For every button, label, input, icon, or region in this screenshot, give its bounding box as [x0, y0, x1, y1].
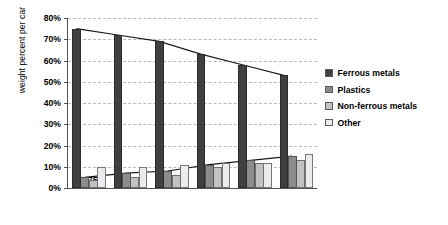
legend-item-label: Ferrous metals — [338, 68, 400, 78]
chart-legend: Ferrous metalsPlasticsNon-ferrous metals… — [325, 68, 417, 128]
y-axis-tick-label: 20% — [44, 141, 61, 151]
y-axis-tick-label: 70% — [44, 34, 61, 44]
y-axis-title: weight percent per car — [17, 0, 27, 130]
y-axis-tick-label: 10% — [44, 162, 61, 172]
bar — [222, 163, 231, 189]
bar — [213, 167, 222, 188]
bar — [139, 167, 148, 188]
legend-swatch-icon — [325, 69, 333, 77]
bar — [180, 165, 189, 188]
y-axis-tick-label: 30% — [44, 119, 61, 129]
legend-swatch-icon — [325, 86, 333, 94]
legend-swatch-icon — [325, 119, 333, 127]
legend-item-label: Plastics — [338, 85, 371, 95]
bar — [305, 154, 314, 188]
bar — [155, 41, 164, 188]
bar — [197, 54, 206, 188]
y-axis-tick-label: 0% — [49, 183, 61, 193]
bar — [263, 163, 272, 189]
bar — [97, 167, 106, 188]
legend-item[interactable]: Other — [325, 118, 417, 128]
bar — [255, 163, 264, 189]
bar — [172, 175, 181, 188]
legend-item-label: Non-ferrous metals — [338, 101, 418, 111]
bar — [246, 160, 255, 188]
y-axis-tick-label: 40% — [44, 98, 61, 108]
legend-item[interactable]: Plastics — [325, 85, 417, 95]
bar — [205, 165, 214, 188]
bar — [130, 177, 139, 188]
y-axis-tick — [64, 188, 68, 189]
legend-item[interactable]: Non-ferrous metals — [325, 101, 417, 111]
bar — [238, 65, 247, 188]
legend-item[interactable]: Ferrous metals — [325, 68, 417, 78]
y-axis-tick-label: 50% — [44, 77, 61, 87]
bar — [288, 156, 297, 188]
bar — [280, 75, 289, 188]
plot-area: 0%10%20%30%40%50%60%70%80% — [67, 18, 317, 189]
bar — [122, 173, 131, 188]
bar — [89, 180, 98, 189]
legend-item-label: Other — [338, 118, 361, 128]
chart-container: weight percent per car 0%10%20%30%40%50%… — [0, 0, 448, 225]
bar — [163, 171, 172, 188]
legend-swatch-icon — [325, 102, 333, 110]
ferrous-trend — [76, 29, 283, 76]
bar — [80, 177, 89, 188]
y-axis-tick-label: 80% — [44, 13, 61, 23]
y-axis-tick-label: 60% — [44, 56, 61, 66]
bar — [114, 35, 123, 188]
bar — [72, 29, 81, 188]
bar — [296, 160, 305, 188]
